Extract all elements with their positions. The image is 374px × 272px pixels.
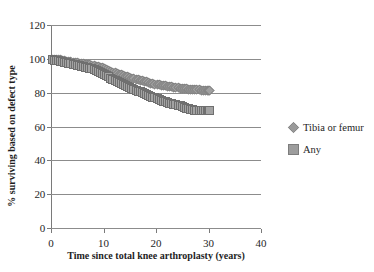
legend-label: Any: [303, 144, 321, 155]
y-axis-title: % surviving based on defect type: [6, 51, 17, 221]
survival-chart-figure: % surviving based on defect type 0204060…: [0, 0, 374, 272]
x-tick-label: 30: [203, 237, 214, 249]
x-tick-label: 40: [256, 237, 267, 249]
plot-area: 020406080100120: [51, 25, 261, 228]
legend-label: Tibia or femur: [303, 122, 364, 133]
x-tick-label: 20: [151, 237, 162, 249]
y-tick-label: 120: [29, 19, 45, 31]
gridline: [51, 25, 261, 26]
y-tick-label: 60: [34, 121, 45, 133]
y-tick-label: 20: [34, 188, 45, 200]
x-tick-label: 10: [98, 237, 109, 249]
y-tick: [47, 160, 51, 161]
data-point-square: [205, 106, 214, 115]
x-axis-ticks: 010203040: [51, 229, 261, 249]
square-marker-icon: [288, 144, 299, 155]
y-tick-label: 40: [34, 154, 45, 166]
x-tick: [104, 229, 105, 233]
x-axis-title: Time since total knee arthroplasty (year…: [51, 250, 261, 261]
x-tick: [51, 229, 52, 233]
y-tick-label: 0: [40, 222, 45, 234]
chart-legend: Tibia or femur Any: [288, 122, 364, 166]
x-tick: [209, 229, 210, 233]
y-tick: [47, 127, 51, 128]
diamond-marker-icon: [288, 122, 299, 133]
y-tick: [47, 25, 51, 26]
x-tick: [156, 229, 157, 233]
x-tick: [261, 229, 262, 233]
gridline: [51, 194, 261, 195]
legend-item-tibia-or-femur[interactable]: Tibia or femur: [288, 122, 364, 133]
gridline: [51, 127, 261, 128]
x-tick-label: 0: [48, 237, 54, 249]
gridline: [51, 160, 261, 161]
y-tick: [47, 93, 51, 94]
y-tick-label: 80: [34, 87, 45, 99]
legend-item-any[interactable]: Any: [288, 144, 364, 155]
y-tick-label: 100: [29, 53, 45, 65]
y-tick: [47, 194, 51, 195]
